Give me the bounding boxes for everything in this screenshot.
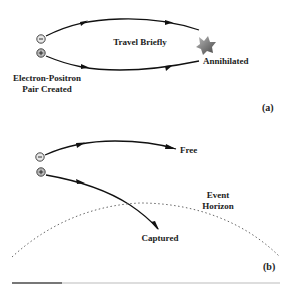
electron-particle-b <box>36 153 44 161</box>
captured-label: Captured <box>142 233 179 244</box>
panel-b-paths <box>45 141 176 230</box>
positron-path-b <box>46 175 158 229</box>
event-horizon-label-line2: Horizon <box>202 201 234 212</box>
positron-particle-b <box>37 168 45 176</box>
panel-b-label: (b) <box>263 261 275 272</box>
event-horizon-arc <box>12 203 280 257</box>
electron-path-a <box>46 19 199 36</box>
free-label: Free <box>180 145 197 156</box>
annihilated-label: Annihilated <box>203 56 249 67</box>
travel-briefly-label: Travel Briefly <box>113 37 167 48</box>
annihilation-burst-icon <box>196 36 216 55</box>
electron-particle-a <box>37 35 45 43</box>
pair-creation-diagram: Travel Briefly Annihilated Electron-Posi… <box>0 0 295 285</box>
panel-a-label: (a) <box>262 102 274 113</box>
event-horizon-label-line1: Event <box>207 190 230 201</box>
positron-path-a <box>46 56 199 70</box>
electron-path-b <box>45 141 176 155</box>
pair-created-label-line2: Pair Created <box>22 84 71 95</box>
pair-created-label-line1: Electron-Positron <box>13 73 81 84</box>
positron-particle-a <box>37 49 45 57</box>
